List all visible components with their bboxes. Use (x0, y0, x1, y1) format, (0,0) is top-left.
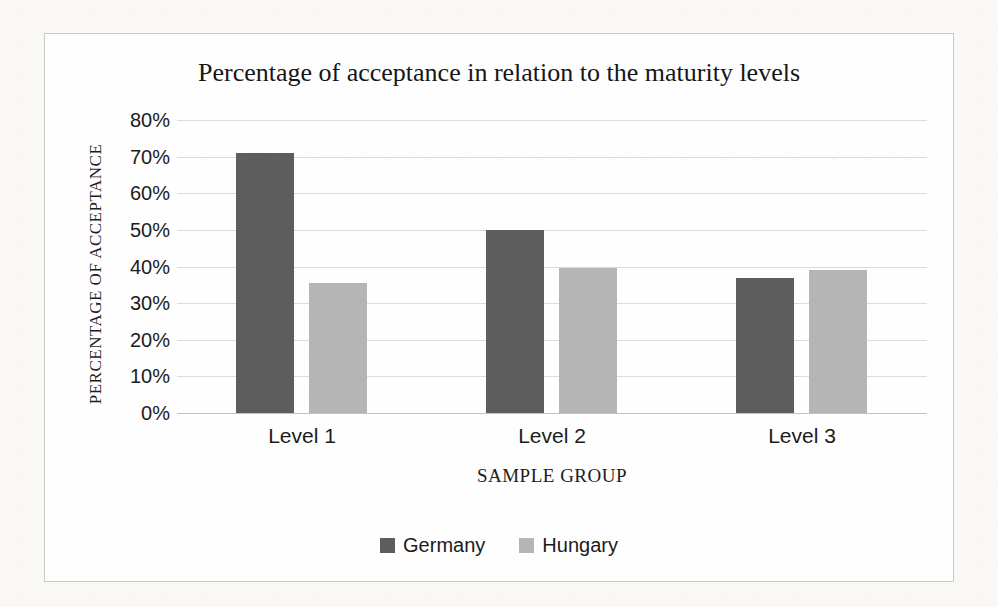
plot-area (177, 120, 927, 413)
page-background: { "chart_data": { "type": "bar", "title"… (0, 0, 998, 607)
x-category-label: Level 2 (472, 424, 632, 448)
y-tick-label: 70% (110, 146, 170, 168)
bar-germany-level-1 (236, 153, 294, 413)
bar-germany-level-2 (486, 230, 544, 413)
bar-germany-level-3 (736, 278, 794, 414)
legend-label: Germany (403, 534, 485, 557)
y-tick-label: 10% (110, 365, 170, 387)
x-category-label: Level 1 (222, 424, 382, 448)
legend-label: Hungary (542, 534, 618, 557)
y-tick-label: 30% (110, 292, 170, 314)
y-tick-label: 80% (110, 109, 170, 131)
bar-hungary-level-3 (809, 270, 867, 413)
y-tick-label: 20% (110, 329, 170, 351)
y-axis-title: PERCENTAGE OF ACCEPTANCE (85, 104, 107, 444)
chart-title: Percentage of acceptance in relation to … (45, 58, 953, 88)
bar-hungary-level-2 (559, 268, 617, 413)
legend-marker-icon (519, 538, 534, 553)
x-axis-line (177, 413, 927, 414)
gridline (177, 120, 927, 121)
legend: GermanyHungary (45, 534, 953, 557)
legend-marker-icon (380, 538, 395, 553)
y-tick-label: 40% (110, 256, 170, 278)
y-tick-label: 0% (110, 402, 170, 424)
chart-container: Percentage of acceptance in relation to … (44, 33, 954, 582)
x-axis-title: SAMPLE GROUP (177, 465, 927, 487)
x-category-label: Level 3 (722, 424, 882, 448)
legend-item-germany: Germany (380, 534, 485, 557)
y-tick-label: 50% (110, 219, 170, 241)
y-tick-label: 60% (110, 182, 170, 204)
legend-item-hungary: Hungary (519, 534, 618, 557)
bar-hungary-level-1 (309, 283, 367, 413)
